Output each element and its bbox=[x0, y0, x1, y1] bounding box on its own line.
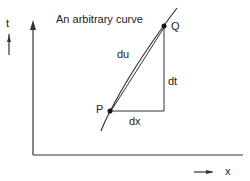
x-direction-arrow-icon bbox=[206, 170, 214, 174]
point-q-marker bbox=[162, 24, 167, 29]
point-q-label: Q bbox=[171, 21, 180, 32]
point-p-marker bbox=[108, 109, 113, 114]
chord-du-label: du bbox=[117, 49, 129, 60]
y-axis-label: t bbox=[6, 18, 9, 29]
dt-label: dt bbox=[168, 76, 177, 87]
y-axis-arrow-icon bbox=[30, 20, 36, 30]
diagram-title: An arbitrary curve bbox=[56, 14, 143, 25]
diagram-canvas bbox=[0, 0, 250, 181]
chord-du bbox=[111, 26, 165, 111]
dx-label: dx bbox=[129, 116, 141, 127]
t-direction-arrow-icon bbox=[7, 35, 11, 42]
x-axis-label: x bbox=[225, 166, 231, 177]
point-p-label: P bbox=[96, 104, 103, 115]
